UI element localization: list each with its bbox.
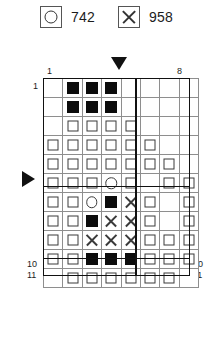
grid-cell-r7-c7[interactable] — [160, 193, 179, 212]
grid-cell-r10-c1[interactable] — [44, 250, 63, 269]
grid-cell-r3-c2[interactable] — [63, 117, 82, 136]
grid-cell-r2-c5[interactable] — [121, 98, 140, 117]
grid-cell-r8-c4[interactable] — [102, 212, 121, 231]
grid-cell-r9-c6[interactable] — [140, 231, 159, 250]
grid-cell-r10-c7[interactable] — [160, 250, 179, 269]
legend-entry-cross: 958 — [118, 6, 173, 28]
grid-cell-r4-c4[interactable] — [102, 136, 121, 155]
grid-cell-r1-c5[interactable] — [121, 79, 140, 98]
grid-cell-r7-c2[interactable] — [63, 193, 82, 212]
grid-cell-r10-c6[interactable] — [140, 250, 159, 269]
grid-cell-r1-c7[interactable] — [160, 79, 179, 98]
grid-cell-r1-c1[interactable] — [44, 79, 63, 98]
grid-cell-r2-c3[interactable] — [82, 98, 101, 117]
grid-cell-r6-c6[interactable] — [140, 174, 159, 193]
grid-cell-r3-c4[interactable] — [102, 117, 121, 136]
grid-cell-r9-c8[interactable] — [179, 231, 198, 250]
grid-cell-r3-c7[interactable] — [160, 117, 179, 136]
grid-cell-r7-c8[interactable] — [179, 193, 198, 212]
grid-cell-r4-c7[interactable] — [160, 136, 179, 155]
grid-cell-r6-c3[interactable] — [82, 174, 101, 193]
grid-cell-r9-c5[interactable] — [121, 231, 140, 250]
open-square-icon — [48, 235, 59, 246]
grid-cell-r4-c8[interactable] — [179, 136, 198, 155]
grid-cell-r8-c7[interactable] — [160, 212, 179, 231]
grid-cell-r8-c3[interactable] — [82, 212, 101, 231]
grid-cell-r10-c4[interactable] — [102, 250, 121, 269]
grid-table[interactable] — [43, 78, 199, 288]
grid-cell-r7-c3[interactable] — [82, 193, 101, 212]
grid-cell-r11-c2[interactable] — [63, 269, 82, 288]
grid-cell-r5-c5[interactable] — [121, 155, 140, 174]
grid-cell-r10-c8[interactable] — [179, 250, 198, 269]
grid-cell-r4-c1[interactable] — [44, 136, 63, 155]
grid-cell-r9-c7[interactable] — [160, 231, 179, 250]
grid-cell-r3-c8[interactable] — [179, 117, 198, 136]
grid-cell-r4-c2[interactable] — [63, 136, 82, 155]
grid-cell-r11-c8[interactable] — [179, 269, 198, 288]
legend-label-circle: 742 — [71, 6, 95, 28]
grid-cell-r5-c1[interactable] — [44, 155, 63, 174]
grid-cell-r5-c4[interactable] — [102, 155, 121, 174]
grid-cell-r6-c5[interactable] — [121, 174, 140, 193]
grid-cell-r6-c2[interactable] — [63, 174, 82, 193]
open-square-icon — [183, 178, 194, 189]
grid-cell-r8-c2[interactable] — [63, 212, 82, 231]
open-square-icon — [164, 254, 175, 265]
grid-cell-r8-c6[interactable] — [140, 212, 159, 231]
grid-cell-r4-c6[interactable] — [140, 136, 159, 155]
open-square-icon — [125, 178, 136, 189]
grid-cell-r7-c4[interactable] — [102, 193, 121, 212]
grid-cell-r8-c5[interactable] — [121, 212, 140, 231]
grid-cell-r11-c5[interactable] — [121, 269, 140, 288]
grid-body — [44, 79, 199, 288]
grid-cell-r5-c3[interactable] — [82, 155, 101, 174]
grid-cell-r4-c3[interactable] — [82, 136, 101, 155]
grid-cell-r10-c5[interactable] — [121, 250, 140, 269]
grid-cell-r3-c6[interactable] — [140, 117, 159, 136]
grid-cell-r6-c4[interactable] — [102, 174, 121, 193]
grid-cell-r8-c8[interactable] — [179, 212, 198, 231]
grid-cell-r6-c1[interactable] — [44, 174, 63, 193]
grid-cell-r5-c2[interactable] — [63, 155, 82, 174]
grid-cell-r1-c6[interactable] — [140, 79, 159, 98]
grid-cell-r7-c5[interactable] — [121, 193, 140, 212]
grid-cell-r10-c3[interactable] — [82, 250, 101, 269]
grid-cell-r9-c1[interactable] — [44, 231, 63, 250]
grid-cell-r5-c8[interactable] — [179, 155, 198, 174]
grid-cell-r2-c4[interactable] — [102, 98, 121, 117]
grid-cell-r10-c2[interactable] — [63, 250, 82, 269]
grid-cell-r5-c7[interactable] — [160, 155, 179, 174]
grid-cell-r6-c8[interactable] — [179, 174, 198, 193]
grid-cell-r11-c3[interactable] — [82, 269, 101, 288]
grid-cell-r2-c7[interactable] — [160, 98, 179, 117]
grid-cell-r2-c2[interactable] — [63, 98, 82, 117]
grid-cell-r9-c2[interactable] — [63, 231, 82, 250]
grid-cell-r2-c1[interactable] — [44, 98, 63, 117]
grid-cell-r1-c4[interactable] — [102, 79, 121, 98]
grid-cell-r3-c1[interactable] — [44, 117, 63, 136]
grid-cell-r11-c4[interactable] — [102, 269, 121, 288]
grid-cell-r7-c6[interactable] — [140, 193, 159, 212]
grid-cell-r6-c7[interactable] — [160, 174, 179, 193]
grid-cell-r9-c4[interactable] — [102, 231, 121, 250]
grid-cell-r5-c6[interactable] — [140, 155, 159, 174]
puzzle-grid[interactable] — [43, 78, 190, 276]
grid-cell-r1-c3[interactable] — [82, 79, 101, 98]
axis-label-left-1: 1 — [33, 81, 38, 91]
grid-cell-r1-c2[interactable] — [63, 79, 82, 98]
grid-cell-r3-c5[interactable] — [121, 117, 140, 136]
grid-cell-r1-c8[interactable] — [179, 79, 198, 98]
grid-cell-r11-c1[interactable] — [44, 269, 63, 288]
grid-cell-r4-c5[interactable] — [121, 136, 140, 155]
grid-cell-r11-c7[interactable] — [160, 269, 179, 288]
open-square-icon — [48, 216, 59, 227]
grid-cell-r3-c3[interactable] — [82, 117, 101, 136]
grid-cell-r2-c6[interactable] — [140, 98, 159, 117]
legend: 742 958 — [0, 6, 214, 36]
grid-cell-r9-c3[interactable] — [82, 231, 101, 250]
grid-cell-r7-c1[interactable] — [44, 193, 63, 212]
grid-cell-r11-c6[interactable] — [140, 269, 159, 288]
grid-cell-r8-c1[interactable] — [44, 212, 63, 231]
grid-cell-r2-c8[interactable] — [179, 98, 198, 117]
